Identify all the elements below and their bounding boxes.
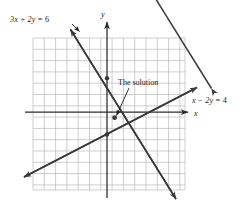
figure-container: 3x + 2y = 6 x − 2y = 4 The solution x y — [0, 0, 249, 218]
equation-label-left: 3x + 2y = 6 — [10, 16, 49, 24]
grid-lines — [33, 38, 185, 190]
equation-right-constant: 4 — [223, 96, 227, 105]
equation-left-operator: + — [20, 15, 25, 24]
equation-right-term-b: 2y — [205, 96, 213, 105]
coordinate-plane — [0, 0, 249, 218]
x-axis-label: x — [194, 110, 198, 118]
point-y-intercept-line2 — [105, 132, 109, 136]
equation-right-term-a: x — [192, 96, 196, 105]
equation-left-equals: = — [38, 15, 43, 24]
equation-right-operator: − — [198, 96, 203, 105]
equation-left-constant: 6 — [45, 15, 49, 24]
axes — [25, 22, 188, 198]
equation-left-term-b: 2y — [27, 15, 35, 24]
equation-label-right: x − 2y = 4 — [192, 97, 227, 105]
equation-left-term-a: 3x — [10, 15, 18, 24]
point-intersection — [112, 115, 117, 120]
y-axis-label: y — [101, 11, 105, 19]
line-3x-plus-2y-equals-6 — [106, 0, 212, 89]
point-y-intercept-line1 — [105, 76, 109, 80]
equation-left-leader-line — [72, 24, 80, 32]
line-x-minus-2y-equals-4-arrow-start — [24, 88, 197, 178]
solution-leader-line — [117, 88, 130, 116]
solution-annotation-label: The solution — [118, 79, 158, 87]
equation-right-equals: = — [216, 96, 221, 105]
